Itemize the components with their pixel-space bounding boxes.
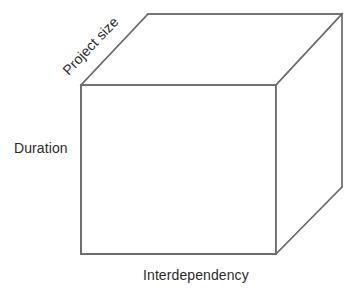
cube-front-face bbox=[81, 85, 276, 254]
axis-label-duration: Duration bbox=[14, 140, 68, 156]
axis-label-interdependency: Interdependency bbox=[143, 267, 249, 283]
diagram-canvas: Project size Duration Interdependency bbox=[0, 0, 361, 302]
